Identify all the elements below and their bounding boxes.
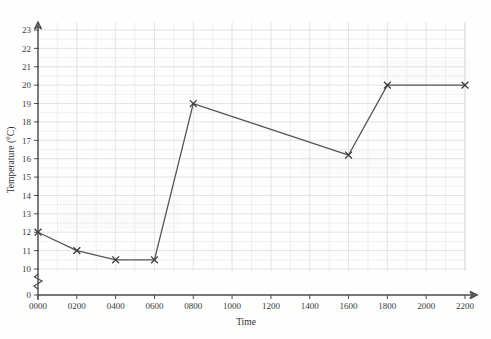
y-axis-tick-label: 11: [22, 246, 31, 256]
x-axis-tick-label: 2000: [417, 301, 436, 311]
x-axis-tick-label: 0000: [29, 301, 48, 311]
y-axis-tick-label: 15: [22, 172, 32, 182]
x-axis-tick-label: 1800: [378, 301, 397, 311]
y-axis-tick-label: 20: [22, 80, 32, 90]
x-axis-tick-label: 2200: [456, 301, 475, 311]
x-axis-tick-label: 1400: [301, 301, 320, 311]
x-axis-tick-label: 0200: [68, 301, 87, 311]
y-axis-tick-label: 19: [22, 99, 32, 109]
x-axis-tick-label: 0400: [107, 301, 126, 311]
y-axis-tick-label: 0: [27, 290, 32, 300]
x-axis-tick-label: 1200: [262, 301, 281, 311]
x-axis-tick-label: 0800: [184, 301, 203, 311]
y-axis-tick-label: 21: [22, 62, 31, 72]
y-axis-tick-label: 18: [22, 117, 32, 127]
y-axis-tick-label: 23: [22, 25, 32, 35]
y-axis-tick-label: 13: [22, 209, 32, 219]
chart-container: 01011121314151617181920212223 0000020004…: [0, 0, 491, 339]
y-axis-tick-label: 22: [22, 44, 31, 54]
y-axis-tick-label: 10: [22, 264, 32, 274]
x-axis-tick-label: 1600: [340, 301, 359, 311]
y-axis-tick-label: 12: [22, 227, 31, 237]
temperature-line-chart: 01011121314151617181920212223 0000020004…: [0, 0, 491, 339]
chart-background: [0, 0, 491, 339]
y-axis-tick-label: 17: [22, 136, 32, 146]
x-axis-tick-label: 1000: [223, 301, 242, 311]
x-axis-title: Time: [236, 317, 256, 327]
x-axis-tick-label: 0600: [145, 301, 164, 311]
y-axis-tick-label: 16: [22, 154, 32, 164]
y-axis-title: Temperature (°C): [6, 127, 17, 194]
y-axis-tick-label: 14: [22, 191, 32, 201]
